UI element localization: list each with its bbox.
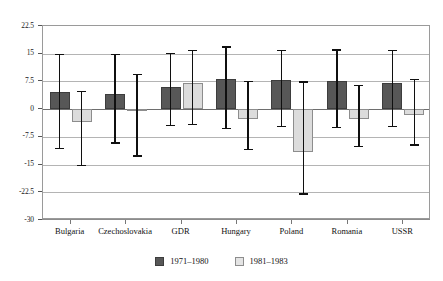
y-tick-label: -22.5	[6, 187, 34, 196]
error-bar-stem	[225, 46, 226, 127]
error-bar-cap-upper	[277, 50, 286, 51]
error-bar-stem	[303, 81, 304, 193]
error-bar-cap-upper	[55, 54, 64, 55]
error-bar-cap-lower	[388, 126, 397, 127]
x-tick-mark	[125, 220, 126, 224]
error-bar-cap-upper	[354, 85, 363, 86]
error-bar-stem	[170, 53, 171, 125]
x-tick-label-romania: Romania	[332, 226, 363, 236]
y-tick-label: 22.5	[6, 21, 34, 30]
error-bar-cap-upper	[166, 53, 175, 54]
y-tick-label: 15	[6, 48, 34, 57]
error-bar-stem	[336, 49, 337, 127]
gridline	[43, 192, 429, 193]
error-bar-cap-upper	[222, 46, 231, 47]
error-bar-cap-lower	[188, 124, 197, 125]
x-tick-label-bulgaria: Bulgaria	[55, 226, 84, 236]
error-bar-cap-lower	[133, 155, 142, 156]
error-bar-stem	[136, 74, 137, 155]
legend-item-2[interactable]: 1981–1983	[235, 256, 288, 266]
x-tick-label-poland: Poland	[280, 226, 304, 236]
error-bar-cap-upper	[299, 81, 308, 82]
error-bar-cap-upper	[111, 54, 120, 55]
error-bar-stem	[358, 85, 359, 146]
y-tick-label: -15	[6, 159, 34, 168]
error-bar-cap-lower	[111, 142, 120, 143]
error-bar-cap-upper	[332, 49, 341, 50]
gridline	[43, 165, 429, 166]
error-bar-cap-lower	[277, 126, 286, 127]
error-bar-stem	[81, 91, 82, 165]
x-tick-label-gdr: GDR	[172, 226, 190, 236]
light-gray-swatch	[235, 257, 244, 266]
error-bar-cap-lower	[410, 144, 419, 145]
chart-legend: 1971–19801981–1983	[0, 256, 443, 266]
x-tick-mark	[402, 220, 403, 224]
y-tick-label: -30	[6, 215, 34, 224]
error-bar-cap-upper	[133, 74, 142, 75]
error-bar-cap-lower	[332, 127, 341, 128]
x-tick-mark	[181, 220, 182, 224]
error-bar-cap-lower	[166, 125, 175, 126]
error-bar-cap-lower	[55, 148, 64, 149]
error-bar-stem	[392, 50, 393, 126]
error-bar-cap-upper	[188, 50, 197, 51]
y-tick-label: 0	[6, 104, 34, 113]
x-tick-label-czechoslovakia: Czechoslovakia	[98, 226, 152, 236]
legend-label: 1971–1980	[170, 256, 208, 266]
error-bar-cap-upper	[388, 50, 397, 51]
y-tick-label: 7.5	[6, 76, 34, 85]
error-bar-cap-upper	[410, 79, 419, 80]
gridline	[43, 81, 429, 82]
error-bar-stem	[281, 50, 282, 126]
legend-item-1[interactable]: 1971–1980	[155, 256, 208, 266]
x-tick-mark	[347, 220, 348, 224]
x-tick-label-ussr: USSR	[392, 226, 413, 236]
gridline	[43, 54, 429, 55]
legend-label: 1981–1983	[250, 256, 288, 266]
error-bar-cap-lower	[244, 149, 253, 150]
error-bar-stem	[414, 79, 415, 145]
error-bar-cap-upper	[77, 91, 86, 92]
grouped-bar-chart: 22.5157.50-7.5-15-22.5-30 BulgariaCzecho…	[0, 0, 443, 281]
x-tick-mark	[70, 220, 71, 224]
error-bar-cap-lower	[77, 165, 86, 166]
error-bar-stem	[192, 50, 193, 124]
dark-gray-swatch	[155, 257, 164, 266]
error-bar-stem	[114, 54, 115, 143]
plot-area	[42, 25, 430, 219]
error-bar-cap-lower	[299, 193, 308, 194]
gridline	[43, 137, 429, 138]
y-tick-label: -7.5	[6, 131, 34, 140]
x-tick-label-hungary: Hungary	[221, 226, 251, 236]
zero-line	[43, 109, 429, 110]
error-bar-cap-lower	[222, 128, 231, 129]
x-tick-mark	[291, 220, 292, 224]
error-bar-stem	[59, 54, 60, 148]
error-bar-stem	[247, 81, 248, 149]
x-tick-mark	[236, 220, 237, 224]
error-bar-cap-upper	[244, 81, 253, 82]
error-bar-cap-lower	[354, 146, 363, 147]
